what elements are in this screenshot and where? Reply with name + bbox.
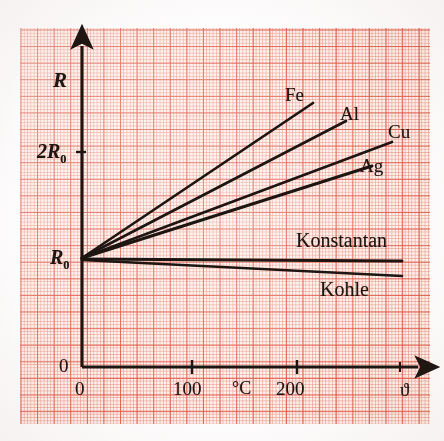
y-tick-label-zero: 0 [59,356,69,375]
curve-fe [82,103,313,258]
x-tick-label-200: 200 [276,379,305,398]
curve-konstantan [82,259,402,261]
x-tick-label-100: 100 [173,379,202,398]
curve-label-fe: Fe [285,85,304,104]
y-tick-label-2r0: 2R0 [37,141,67,165]
x-axis-unit-label: °C [232,379,251,397]
curve-label-kohle: Kohle [320,279,369,299]
curve-label-al: Al [340,104,359,123]
y-tick-label-r0: R0 [50,247,70,271]
curve-kohle [82,260,402,276]
x-tick-label-0: 0 [75,379,85,398]
curve-label-ag: Ag [360,156,383,175]
curve-label-cu: Cu [388,122,410,141]
figure-root: R 2R0 R0 0 0 100 °C 200 ϑ Fe Al Cu Ag Ko… [0,0,444,441]
y-axis-name: R [53,70,67,91]
x-axis-name: ϑ [400,380,409,399]
curve-label-konstantan: Konstantan [296,230,387,250]
